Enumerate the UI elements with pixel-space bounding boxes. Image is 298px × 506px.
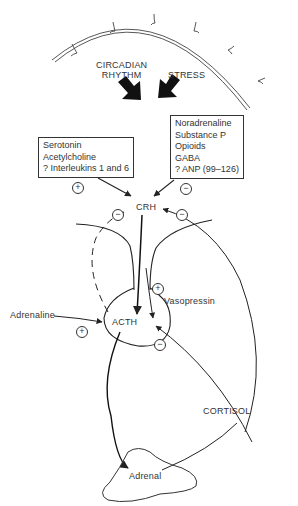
acth-short-loop-feedback (92, 212, 124, 312)
cortisol-to-crh-feedback (163, 209, 256, 432)
stimulatory-factors-box: Serotonin Acetylcholine ? Interleukins 1… (38, 137, 134, 178)
circadian-label-line2: RHYTHM (96, 70, 147, 80)
vasopressin-label: Vasopressin (164, 296, 215, 306)
crh-label: CRH (136, 202, 156, 212)
cortisol-to-acth-feedback (156, 326, 252, 442)
inhibitory-to-crh-arrow (154, 180, 174, 196)
circadian-label-line1: CIRCADIAN (96, 60, 147, 70)
plus-sign-stimulatory: + (72, 182, 84, 194)
stimulatory-item: Acetylcholine (43, 152, 129, 164)
stress-label: STRESS (168, 70, 205, 80)
inhibitory-item: GABA (175, 153, 239, 165)
hpa-axis-diagram (0, 0, 298, 506)
stimulatory-item: ? Interleukins 1 and 6 (43, 163, 129, 175)
inhibitory-item: Substance P (175, 130, 239, 142)
cortisol-label: CORTISOL (203, 406, 250, 416)
stimulatory-item: Serotonin (43, 140, 129, 152)
circadian-rhythm-label: CIRCADIAN RHYTHM (96, 60, 147, 80)
acth-to-adrenal-arrow (107, 332, 128, 468)
minus-sign-cortisol-crh: − (176, 209, 188, 221)
inhibitory-factors-box: Noradrenaline Substance P Opioids GABA ?… (170, 115, 244, 179)
inhibitory-item: Noradrenaline (175, 118, 239, 130)
minus-sign-inhibitory: − (180, 183, 192, 195)
adrenaline-to-acth-arrow (54, 316, 102, 322)
vasopressin-to-acth-arrow (146, 268, 153, 318)
acth-label: ACTH (112, 317, 137, 327)
inhibitory-item: Opioids (175, 141, 239, 153)
adrenal-label: Adrenal (129, 471, 161, 481)
adrenal-to-cortisol-line (162, 423, 237, 470)
crh-to-acth-arrow (137, 215, 142, 314)
plus-sign-adrenaline: + (76, 326, 88, 338)
adrenaline-label: Adrenaline (10, 310, 55, 320)
minus-sign-acth-loop: − (112, 209, 124, 221)
pituitary-stalk-outline (76, 220, 212, 346)
stimulatory-to-crh-arrow (98, 178, 131, 196)
minus-sign-cortisol-acth: − (154, 339, 166, 351)
plus-sign-vasopressin: + (152, 283, 164, 295)
inhibitory-item: ? ANP (99–126) (175, 164, 239, 176)
